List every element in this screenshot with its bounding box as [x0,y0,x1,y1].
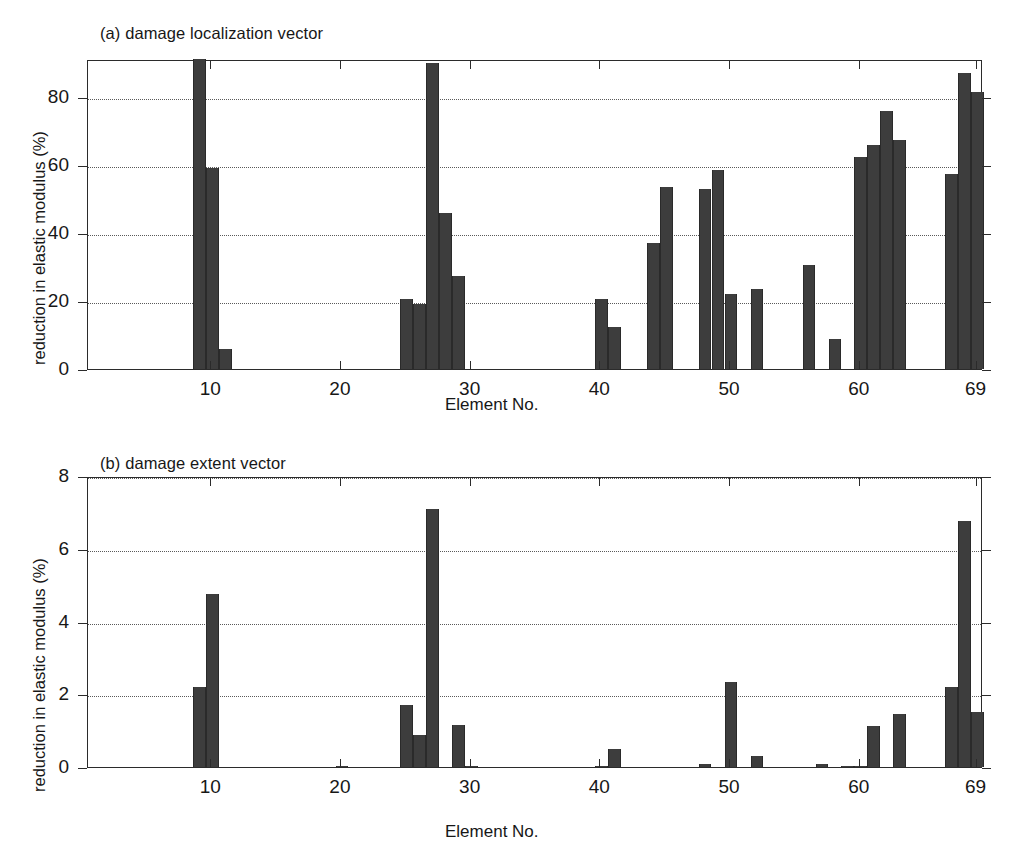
y-axis-tick-right [982,302,991,303]
y-axis-tick [78,623,87,624]
bar [712,170,725,369]
bar [867,726,880,767]
bar [854,766,867,767]
bar [452,276,465,369]
bar [751,289,764,369]
figure-container: (a) damage localization vector reduction… [0,0,1015,859]
bar [465,766,478,767]
bar [971,712,984,767]
bar [193,59,206,369]
bar [971,92,984,369]
x-axis-tick-label: 30 [430,776,510,798]
bar [426,509,439,767]
bar [452,725,465,767]
y-axis-tick-right [982,623,991,624]
bar [867,145,880,369]
gridline [88,478,981,479]
bar [647,243,660,369]
x-axis-tick-top [340,477,341,486]
bar [608,749,621,767]
gridline [88,167,981,168]
x-axis-tick-top [976,60,977,69]
x-axis-tick-bottom [729,361,730,370]
panel-damage-localization-vector: (a) damage localization vector reduction… [0,0,1015,430]
y-axis-tick-right [982,98,991,99]
x-axis-tick-top [470,60,471,69]
y-axis-tick-label: 80 [7,86,69,108]
y-axis-tick [78,166,87,167]
x-axis-tick-bottom [976,361,977,370]
y-axis-tick [78,302,87,303]
bar [699,189,712,369]
x-axis-tick-label: 20 [300,776,380,798]
bar [336,766,349,767]
bar [958,521,971,767]
bar [413,304,426,369]
bar [893,140,906,369]
x-axis-tick-top [210,477,211,486]
y-axis-tick [78,370,87,371]
y-axis-tick-right [982,768,991,769]
bar [439,213,452,369]
x-axis-tick-bottom [210,361,211,370]
bar [725,682,738,767]
y-axis-tick [78,695,87,696]
y-axis-tick-label: 8 [7,465,69,487]
x-axis-tick-bottom [340,759,341,768]
bar [699,764,712,767]
y-axis-tick-right [982,695,991,696]
gridline [88,551,981,552]
panel-a-title: (a) damage localization vector [100,24,323,43]
bar [854,157,867,369]
x-axis-tick-top [859,477,860,486]
x-axis-tick-bottom [599,361,600,370]
bar [219,349,232,369]
x-axis-tick-label: 60 [819,776,899,798]
y-axis-tick [78,550,87,551]
x-axis-tick-label: 69 [936,776,1015,798]
y-axis-tick-label: 6 [7,538,69,560]
y-axis-tick-label: 0 [7,358,69,380]
panel-b-plot-area [87,477,982,768]
bar [841,766,854,767]
x-axis-tick-label: 10 [170,776,250,798]
gridline [88,624,981,625]
x-axis-tick-label: 20 [300,378,380,400]
gridline [88,99,981,100]
bar [945,174,958,369]
gridline [88,696,981,697]
gridline [88,303,981,304]
x-axis-tick-top [729,60,730,69]
x-axis-tick-top [976,477,977,486]
bar [880,111,893,369]
bar [413,735,426,767]
panel-b-title: (b) damage extent vector [100,454,286,473]
x-axis-tick-top [859,60,860,69]
x-axis-tick-label: 50 [689,776,769,798]
bar [660,187,673,369]
panel-damage-extent-vector: (b) damage extent vector reduction in el… [0,430,1015,859]
x-axis-tick-label: 50 [689,378,769,400]
bar [206,594,219,767]
panel-b-x-axis-label: Element No. [445,822,539,842]
x-axis-tick-label: 40 [559,378,639,400]
x-axis-tick-top [729,477,730,486]
x-axis-tick-label: 40 [559,776,639,798]
x-axis-tick-bottom [859,361,860,370]
x-axis-tick-top [210,60,211,69]
y-axis-tick [78,768,87,769]
x-axis-tick-bottom [210,759,211,768]
bar [595,299,608,369]
bar [595,766,608,767]
y-axis-tick [78,98,87,99]
x-axis-tick-bottom [976,759,977,768]
bar [400,299,413,369]
y-axis-tick-label: 60 [7,154,69,176]
y-axis-tick [78,477,87,478]
bar [608,327,621,369]
bar [426,63,439,369]
y-axis-tick-right [982,550,991,551]
x-axis-tick-label: 10 [170,378,250,400]
bar [400,705,413,767]
y-axis-tick-right [982,234,991,235]
